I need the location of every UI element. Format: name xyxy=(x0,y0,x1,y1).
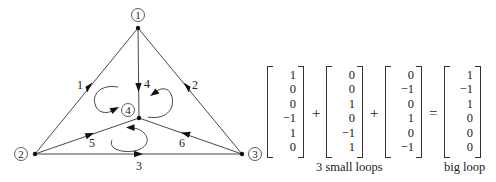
vector-entry: 1 xyxy=(450,68,473,82)
vector-entry: 0 xyxy=(332,111,355,125)
vector-entry: −1 xyxy=(273,111,296,125)
vector-entry: 1 xyxy=(391,111,414,125)
vector-entry: 0 xyxy=(391,97,414,111)
vector-entries: 1 0 0 −1 1 0 xyxy=(273,68,296,154)
vector-small-loop-3: 0 −1 0 1 0 −1 xyxy=(385,66,422,156)
vector-small-loop-2: 0 0 1 0 −1 1 xyxy=(326,66,363,156)
equals-operator: = xyxy=(429,104,437,122)
node-label-3: 3 xyxy=(252,148,258,160)
plus-operator: + xyxy=(370,104,378,122)
plus-operator: + xyxy=(312,104,320,122)
bottom-loop xyxy=(111,128,147,152)
edge-label-1: 1 xyxy=(77,78,83,92)
edge-4 xyxy=(138,28,139,118)
node-3-dot xyxy=(240,152,244,156)
node-1-dot xyxy=(136,26,140,30)
vector-entry: −1 xyxy=(391,82,414,96)
vector-big-loop: 1 −1 1 0 0 0 xyxy=(444,66,481,156)
vector-entry: 0 xyxy=(450,140,473,154)
edge-labels: 1 2 3 4 5 6 xyxy=(77,77,198,173)
vector-entries: 0 0 1 0 −1 1 xyxy=(332,68,355,154)
directed-graph: 1 2 3 4 5 6 1 2 3 4 xyxy=(0,0,262,182)
vector-entry: 1 xyxy=(332,97,355,111)
arrow-edge-3-icon xyxy=(134,151,143,157)
caption-small-loops: 3 small loops xyxy=(316,160,383,174)
right-loop xyxy=(148,89,173,118)
vector-small-loop-1: 1 0 0 −1 1 0 xyxy=(267,66,304,156)
vector-entry: 1 xyxy=(332,140,355,154)
node-4-dot xyxy=(137,116,141,120)
node-label-1: 1 xyxy=(135,9,141,21)
vector-entry: 0 xyxy=(332,68,355,82)
edge-label-6: 6 xyxy=(179,136,185,150)
vector-entry: −1 xyxy=(391,140,414,154)
node-label-2: 2 xyxy=(18,148,24,160)
edge-label-3: 3 xyxy=(136,159,142,173)
vector-entries: 0 −1 0 1 0 −1 xyxy=(391,68,414,154)
bottom-loop-arrow-icon xyxy=(126,124,135,131)
vector-entry: 1 xyxy=(273,68,296,82)
vector-entry: 0 xyxy=(450,126,473,140)
bracket-right xyxy=(357,66,363,158)
arrow-edge-2-icon xyxy=(184,83,191,93)
vector-entry: 0 xyxy=(273,140,296,154)
left-loop-arrow-icon xyxy=(110,107,120,114)
vector-entry: 0 xyxy=(273,82,296,96)
node-2-dot xyxy=(33,152,37,156)
bracket-right xyxy=(475,66,481,158)
arrow-edge-4-icon xyxy=(135,83,141,92)
caption-big-loop: big loop xyxy=(444,160,485,174)
loops xyxy=(94,86,172,151)
bracket-right xyxy=(298,66,304,158)
vector-entry: 1 xyxy=(450,97,473,111)
vector-entries: 1 −1 1 0 0 0 xyxy=(450,68,473,154)
figure: 1 2 3 4 5 6 1 2 3 4 1 xyxy=(0,0,496,182)
edge-label-5: 5 xyxy=(89,136,95,150)
vector-entry: 0 xyxy=(332,82,355,96)
vector-entry: 1 xyxy=(273,126,296,140)
vector-entry: 0 xyxy=(391,68,414,82)
vector-entry: −1 xyxy=(332,126,355,140)
edge-label-4: 4 xyxy=(144,77,150,91)
vector-entry: 0 xyxy=(450,111,473,125)
edge-label-2: 2 xyxy=(192,78,198,92)
vector-entry: 0 xyxy=(273,97,296,111)
vector-entry: 0 xyxy=(391,126,414,140)
edge-arrows xyxy=(85,83,191,158)
edge-2 xyxy=(138,28,242,154)
bracket-right xyxy=(416,66,422,158)
right-loop-arrow-icon xyxy=(150,89,160,97)
edge-6 xyxy=(139,118,242,154)
node-label-4: 4 xyxy=(125,104,131,116)
vector-entry: −1 xyxy=(450,82,473,96)
